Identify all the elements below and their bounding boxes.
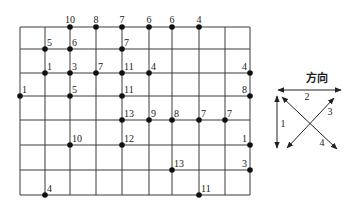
point-value-label: 12 [124,133,134,144]
grid-point: 4 [146,61,156,76]
legend-title: 方向 [306,71,328,85]
point-marker [196,24,202,30]
direction-4-arrow [282,97,337,149]
point-value-label: 4 [47,183,52,194]
point-marker [119,24,125,30]
grid-point: 11 [119,84,133,99]
point-value-label: 7 [124,37,129,48]
point-value-label: 13 [124,108,134,119]
point-value-label: 4 [242,61,247,72]
grid-point: 1 [17,84,27,99]
point-value-label: 6 [72,37,77,48]
grid-point: 7 [222,108,232,123]
grid-point: 3 [242,158,253,173]
point-value-label: 7 [98,61,103,72]
point-value-label: 7 [120,14,125,25]
point-marker [67,24,73,30]
grid-point: 4 [42,183,52,198]
point-marker [93,24,99,30]
point-marker [247,93,253,99]
point-value-label: 10 [72,133,82,144]
point-value-label: 8 [174,108,179,119]
point-value-label: 13 [174,158,184,169]
grid-point: 3 [67,61,77,76]
point-value-label: 9 [151,108,156,119]
point-value-label: 7 [227,108,232,119]
point-marker [247,70,253,76]
point-marker [247,167,253,173]
grid-point: 7 [119,14,125,30]
point-value-label: 1 [47,61,52,72]
grid-point: 7 [93,61,103,76]
grid-point: 5 [67,84,77,99]
point-value-label: 4 [197,14,202,25]
point-value-label: 4 [151,61,156,72]
point-value-label: 11 [124,84,134,95]
grid-point: 8 [169,108,179,123]
point-value-label: 6 [170,14,175,25]
point-value-label: 3 [72,61,77,72]
grid-point: 1 [42,61,52,76]
grid-point: 10 [67,133,82,148]
direction-2-label: 2 [305,91,310,102]
grid-point: 6 [146,14,152,30]
point-value-label: 8 [94,14,99,25]
grid-point: 5 [42,37,52,52]
grid-point: 11 [196,183,210,198]
grid-point: 6 [169,14,175,30]
point-marker [247,142,253,148]
grid-diagram: 108766456713711441511813987710121133411 … [0,0,354,212]
point-value-label: 6 [147,14,152,25]
grid-point: 4 [196,14,202,30]
grid-point: 13 [119,108,134,123]
point-value-label: 1 [242,133,247,144]
point-marker [146,24,152,30]
grid-point: 13 [169,158,184,173]
grid-point: 9 [146,108,156,123]
grid-point: 8 [242,84,253,99]
point-value-label: 3 [242,158,247,169]
grid-point: 11 [119,61,133,76]
grid-point: 6 [67,37,77,52]
point-value-label: 7 [201,108,206,119]
grid-point: 12 [119,133,134,148]
point-value-label: 11 [201,183,211,194]
grid-lines [20,27,250,195]
grid-point: 8 [93,14,99,30]
grid-point: 4 [242,61,253,76]
point-value-label: 8 [242,84,247,95]
grid-point: 7 [119,37,129,52]
point-value-label: 1 [22,84,27,95]
point-value-label: 5 [47,37,52,48]
direction-4-label: 4 [320,137,325,148]
direction-1-label: 1 [281,118,286,129]
point-value-label: 10 [65,14,75,25]
grid-point: 1 [242,133,253,148]
point-value-label: 5 [72,84,77,95]
point-value-label: 11 [124,61,134,72]
point-marker [169,24,175,30]
direction-3-label: 3 [328,106,333,117]
grid-point: 7 [196,108,206,123]
direction-legend: 方向 2 1 3 4 [277,71,341,149]
